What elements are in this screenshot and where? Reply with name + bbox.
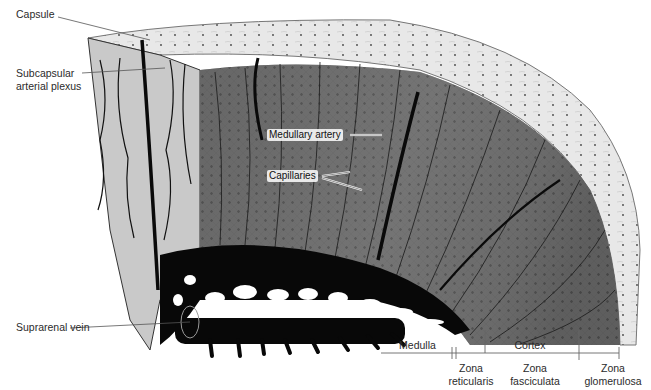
zona-glomerulosa-line1: Zona [580, 362, 646, 374]
suprarenal-vein-label: Suprarenal vein [16, 321, 90, 333]
gland-illustration [0, 0, 651, 390]
medullary-artery-label: Medullary artery [267, 129, 343, 141]
cortex-label: Cortex [500, 339, 560, 351]
zona-fasciculata-line1: Zona [505, 362, 565, 374]
subcapsular-label-line1: Subcapsular [16, 67, 74, 79]
capillaries-label: Capillaries [267, 170, 318, 182]
zona-reticularis-line1: Zona [446, 362, 496, 374]
zona-reticularis-line2: reticularis [446, 375, 496, 387]
capsule-label: Capsule [16, 8, 55, 20]
adrenal-gland-diagram: Capsule Subcapsular arterial plexus Supr… [0, 0, 651, 390]
zona-fasciculata-line2: fasciculata [505, 375, 565, 387]
zona-glomerulosa-line2: glomerulosa [580, 375, 646, 387]
subcapsular-label-line2: arterial plexus [16, 80, 81, 92]
medulla-label: Medulla [390, 339, 445, 351]
